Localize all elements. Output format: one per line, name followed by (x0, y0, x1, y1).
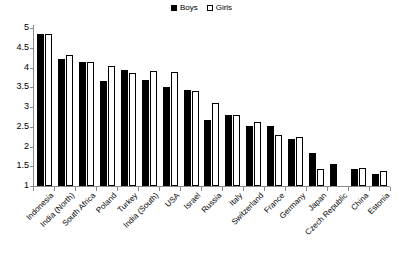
legend-entry-boys: Boys (171, 4, 198, 12)
bar-group (34, 28, 55, 186)
bar-boys (163, 87, 170, 186)
legend-entry-girls: Girls (207, 4, 232, 12)
bar-group (118, 28, 139, 186)
x-axis-label: Poland (94, 191, 118, 215)
bar-girls (359, 168, 366, 186)
bar-girls (212, 103, 219, 186)
bar-group (264, 28, 285, 186)
bar-boys (246, 126, 253, 186)
bar-boys (330, 164, 337, 187)
y-tick-label: 4 (24, 62, 29, 73)
bar-girls (317, 169, 324, 186)
bar-group (285, 28, 306, 186)
y-tick-label: 3.5 (16, 81, 29, 92)
y-tick-label: 1.5 (16, 160, 29, 171)
chart-legend: Boys Girls (0, 4, 403, 12)
y-tick-label: 2 (24, 141, 29, 152)
plot-area: 11.522.533.544.55 (33, 28, 390, 187)
bar-group (243, 28, 264, 186)
bar-girls (275, 135, 282, 186)
bar-group (181, 28, 202, 186)
bar-boys (142, 80, 149, 186)
bar-girls (129, 73, 136, 186)
x-axis-label: USA (163, 191, 181, 209)
x-axis-label-text: Italy (227, 191, 244, 208)
bar-girls (296, 137, 303, 186)
bar-group (222, 28, 243, 186)
bar-boys (372, 174, 379, 186)
x-axis-label-text: Estonia (366, 191, 391, 216)
y-tick-label: 1 (24, 180, 29, 191)
bar-boys (37, 34, 44, 186)
bar-group (306, 28, 327, 186)
bar-group (327, 28, 348, 186)
y-tick-label: 3 (24, 101, 29, 112)
bar-boys (288, 139, 295, 186)
bar-group (160, 28, 181, 186)
x-axis-labels: IndonesiaIndia (North)South AfricaPoland… (33, 191, 390, 257)
bar-group (202, 28, 223, 186)
bar-group (348, 28, 369, 186)
bar-girls (45, 34, 52, 186)
x-axis-label: Russia (199, 191, 223, 215)
bar-girls (66, 55, 73, 186)
bar-girls (87, 62, 94, 186)
bar-girls (192, 91, 199, 186)
bar-girls (171, 72, 178, 186)
legend-swatch-girls-icon (207, 5, 213, 11)
y-tick-label: 4.5 (16, 42, 29, 53)
bar-girls (254, 122, 261, 186)
bar-boys (351, 169, 358, 186)
y-tick-label: 5 (24, 22, 29, 33)
x-tick-mark (390, 187, 391, 191)
legend-swatch-boys-icon (171, 5, 177, 11)
bar-boys (100, 81, 107, 186)
bar-girls (380, 171, 387, 186)
x-axis-label: Estonia (366, 191, 391, 216)
bar-girls (233, 115, 240, 186)
bar-boys (225, 115, 232, 186)
y-tick-label: 2.5 (16, 121, 29, 132)
bar-group (369, 28, 390, 186)
bar-girls (150, 71, 157, 186)
bar-chart: Boys Girls 11.522.533.544.55 IndonesiaIn… (0, 0, 403, 258)
bar-group (76, 28, 97, 186)
bar-group (139, 28, 160, 186)
bar-girls (108, 66, 115, 186)
bar-boys (204, 120, 211, 186)
x-axis-label-text: Russia (199, 191, 223, 215)
bars-layer (34, 28, 390, 186)
bar-group (55, 28, 76, 186)
bar-boys (79, 62, 86, 186)
x-axis-label-text: USA (163, 191, 181, 209)
bar-boys (121, 70, 128, 186)
bar-boys (58, 59, 65, 186)
bar-boys (309, 153, 316, 186)
legend-label-girls: Girls (216, 4, 232, 12)
bar-boys (267, 126, 274, 186)
legend-label-boys: Boys (180, 4, 198, 12)
bar-group (97, 28, 118, 186)
bar-boys (184, 90, 191, 186)
x-axis-label: Italy (227, 191, 244, 208)
x-axis-label-text: Poland (94, 191, 118, 215)
